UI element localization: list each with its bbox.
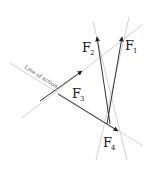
label-f1: F 1 [125,38,137,55]
svg-text:3: 3 [80,95,84,103]
label-f4: F 4 [103,135,116,152]
svg-text:4: 4 [111,144,116,152]
label-f2: F 2 [82,40,94,57]
force-arrow-f2 [97,37,110,124]
label-f3: F 3 [72,86,84,103]
svg-text:1: 1 [133,47,137,55]
svg-text:2: 2 [90,49,94,57]
force-diagram: Line of action F 1 F 2 F 3 F 4 [0,0,152,169]
line-of-action-label: Line of action [23,64,59,90]
